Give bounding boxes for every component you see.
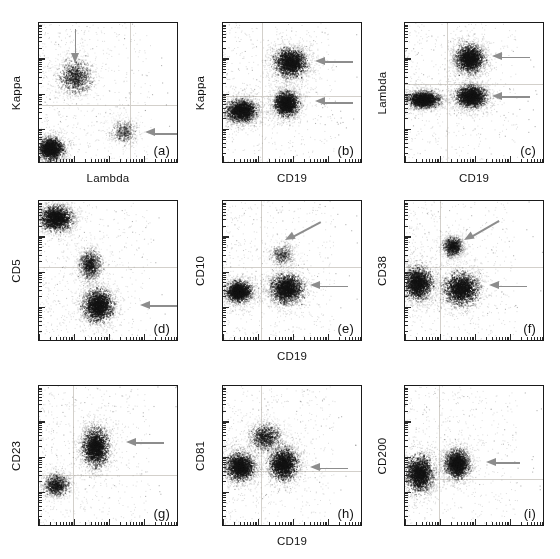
y-tick (405, 425, 408, 426)
x-tick (426, 522, 427, 525)
y-tick (405, 467, 408, 468)
x-tick (440, 519, 441, 525)
y-tick (405, 510, 408, 511)
panel-letter-i: (i) (524, 506, 536, 521)
x-tick (432, 522, 433, 525)
x-tick (470, 522, 471, 525)
x-tick (510, 519, 511, 525)
y-tick (405, 440, 408, 441)
x-tick (531, 522, 532, 525)
x-tick (451, 522, 452, 525)
y-axis-ticks-i (405, 386, 411, 525)
y-tick (405, 497, 408, 498)
y-tick (405, 429, 408, 430)
y-tick (405, 457, 411, 458)
x-tick (467, 522, 468, 525)
x-tick (486, 522, 487, 525)
y-tick (405, 493, 408, 494)
y-tick (405, 423, 408, 424)
y-tick (405, 404, 408, 405)
plot-area-i: (i) (404, 385, 544, 526)
x-tick (435, 522, 436, 525)
y-tick (405, 492, 411, 493)
y-tick (405, 500, 408, 501)
x-axis-ticks-i (405, 519, 543, 525)
y-tick (405, 389, 408, 390)
y-tick (405, 460, 408, 461)
flow-cytometry-figure: (a)KappaLambda(b)KappaCD19(c)LambdaCD19(… (0, 0, 560, 559)
x-tick (464, 522, 465, 525)
y-tick (405, 516, 408, 517)
y-tick (405, 462, 408, 463)
y-tick (405, 394, 408, 395)
y-tick (405, 421, 411, 422)
scatter-dots-i (405, 386, 544, 526)
y-tick (405, 388, 408, 389)
x-tick (534, 522, 535, 525)
x-tick (475, 519, 476, 525)
y-tick (405, 506, 408, 507)
y-tick (405, 400, 408, 401)
x-tick (499, 522, 500, 525)
y-tick (405, 495, 408, 496)
x-tick (422, 522, 423, 525)
y-tick (405, 391, 408, 392)
x-tick (521, 522, 522, 525)
y-tick (405, 458, 408, 459)
x-tick (416, 522, 417, 525)
y-tick (405, 397, 408, 398)
x-tick (543, 522, 544, 525)
x-tick (505, 522, 506, 525)
x-tick (429, 522, 430, 525)
x-tick (457, 522, 458, 525)
y-tick (405, 475, 408, 476)
scatter-panel-i: (i)CD200 (0, 0, 560, 559)
y-tick (405, 411, 408, 412)
x-tick (502, 522, 503, 525)
y-tick (405, 427, 408, 428)
x-tick (540, 522, 541, 525)
y-axis-label-i: CD200 (376, 437, 388, 474)
x-tick (496, 522, 497, 525)
y-tick (405, 481, 408, 482)
y-tick (405, 432, 408, 433)
y-tick (405, 502, 408, 503)
y-tick (405, 446, 408, 447)
x-tick (461, 522, 462, 525)
x-tick (492, 522, 493, 525)
y-tick (405, 464, 408, 465)
y-tick (405, 471, 408, 472)
x-tick (527, 522, 528, 525)
x-tick (537, 522, 538, 525)
y-tick (405, 435, 408, 436)
